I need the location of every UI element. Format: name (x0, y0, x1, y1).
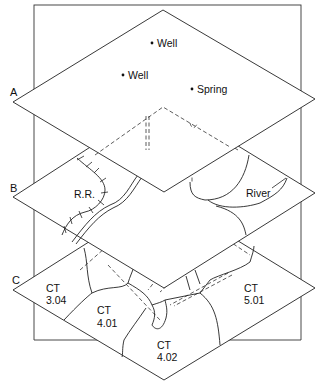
river-label: River (246, 187, 271, 199)
tract-4-02-ct: CT (157, 339, 172, 351)
tract-4-01-num: 4.01 (97, 317, 118, 329)
layer-b-label: B (10, 182, 17, 194)
well-label-2: Well (128, 69, 148, 81)
tract-3-04-ct: CT (46, 282, 61, 294)
spring-point (191, 88, 194, 91)
layer-diagram: Well Well Spring A B C R.R. River CT 3.0… (0, 0, 328, 391)
tract-5-01-ct: CT (244, 282, 259, 294)
spring-label: Spring (197, 83, 228, 95)
railroad-label: R.R. (74, 188, 95, 200)
tract-3-04-num: 3.04 (46, 294, 67, 306)
layer-c-label: C (12, 274, 20, 286)
well-point-2 (122, 74, 125, 77)
well-label-1: Well (157, 37, 177, 49)
tract-5-01-num: 5.01 (244, 294, 265, 306)
tract-4-02-num: 4.02 (157, 351, 178, 363)
well-point-1 (151, 42, 154, 45)
tract-4-01-ct: CT (97, 304, 112, 316)
layer-a-label: A (10, 86, 18, 98)
